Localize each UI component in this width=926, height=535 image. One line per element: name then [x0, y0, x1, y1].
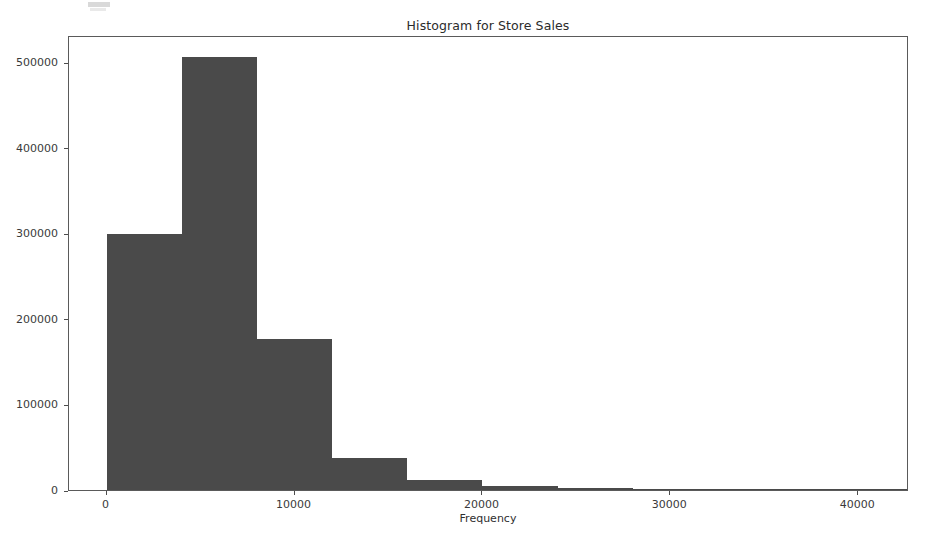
- histogram-bar: [858, 489, 908, 490]
- y-tick-mark: [64, 148, 68, 149]
- histogram-bar: [107, 234, 182, 490]
- plot-area: [68, 36, 908, 491]
- histogram-bar: [783, 489, 858, 490]
- x-tick-mark: [294, 491, 295, 495]
- scan-artifact: [88, 2, 110, 7]
- scan-artifact-secondary: [90, 8, 106, 11]
- y-tick-label: 300000: [0, 227, 58, 240]
- x-tick-label: 20000: [464, 498, 499, 511]
- y-tick-label: 100000: [0, 398, 58, 411]
- x-tick-mark: [857, 491, 858, 495]
- y-tick-mark: [64, 319, 68, 320]
- histogram-bar: [633, 489, 708, 490]
- x-tick-label: 30000: [652, 498, 687, 511]
- x-axis-title: Frequency: [68, 512, 908, 525]
- x-tick-label: 10000: [276, 498, 311, 511]
- y-tick-mark: [64, 491, 68, 492]
- histogram-bar: [708, 489, 783, 490]
- y-tick-label: 200000: [0, 313, 58, 326]
- y-tick-mark: [64, 63, 68, 64]
- y-tick-label: 0: [0, 484, 58, 497]
- y-tick-label: 400000: [0, 142, 58, 155]
- histogram-bar: [558, 488, 633, 490]
- x-tick-label: 40000: [840, 498, 875, 511]
- histogram-figure: Histogram for Store Sales 01000002000003…: [0, 0, 926, 535]
- histogram-bar: [257, 339, 332, 490]
- histogram-bar: [332, 458, 407, 490]
- histogram-bar: [482, 486, 557, 490]
- bars-layer: [69, 37, 907, 490]
- x-tick-label: 0: [102, 498, 109, 511]
- x-tick-mark: [481, 491, 482, 495]
- chart-title: Histogram for Store Sales: [68, 18, 908, 33]
- x-tick-mark: [106, 491, 107, 495]
- histogram-bar: [407, 480, 482, 490]
- y-tick-mark: [64, 234, 68, 235]
- y-tick-mark: [64, 405, 68, 406]
- x-tick-mark: [669, 491, 670, 495]
- histogram-bar: [182, 57, 257, 490]
- y-tick-label: 500000: [0, 56, 58, 69]
